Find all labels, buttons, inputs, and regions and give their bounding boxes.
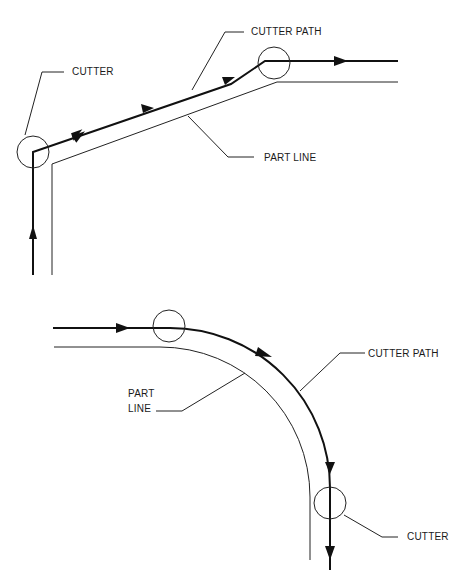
cutter-leader (344, 515, 398, 537)
label-part-line: PART LINE (264, 152, 317, 163)
bottom-diagram: PART LINE CUTTER PATH CUTTER (53, 310, 449, 570)
label-cutter: CUTTER (72, 66, 114, 77)
cutter-path-diagram: CUTTER CUTTER PATH PART LINE PART LINE C… (0, 0, 465, 580)
part-line-leader (156, 373, 245, 411)
label-cutter-path: CUTTER PATH (251, 26, 322, 37)
label-line: LINE (128, 403, 151, 414)
part-line-leader (188, 116, 254, 157)
cutter-path-leader (300, 353, 365, 391)
top-diagram: CUTTER CUTTER PATH PART LINE (17, 26, 398, 275)
arrow-icon (255, 347, 272, 357)
arrow-icon (325, 462, 335, 474)
top-part-line (52, 82, 398, 275)
arrow-icon (29, 225, 37, 239)
label-cutter: CUTTER (407, 531, 449, 542)
top-cutter-path (33, 61, 398, 275)
cutter-leader (25, 72, 64, 135)
bottom-cutter-start (153, 310, 185, 342)
bottom-part-line (54, 347, 310, 560)
label-cutter-path: CUTTER PATH (368, 348, 439, 359)
arrow-icon (334, 56, 348, 66)
label-part: PART (128, 388, 155, 399)
arrow-icon (325, 546, 335, 560)
arrow-icon (116, 323, 130, 333)
bottom-cutter-path (53, 328, 330, 570)
